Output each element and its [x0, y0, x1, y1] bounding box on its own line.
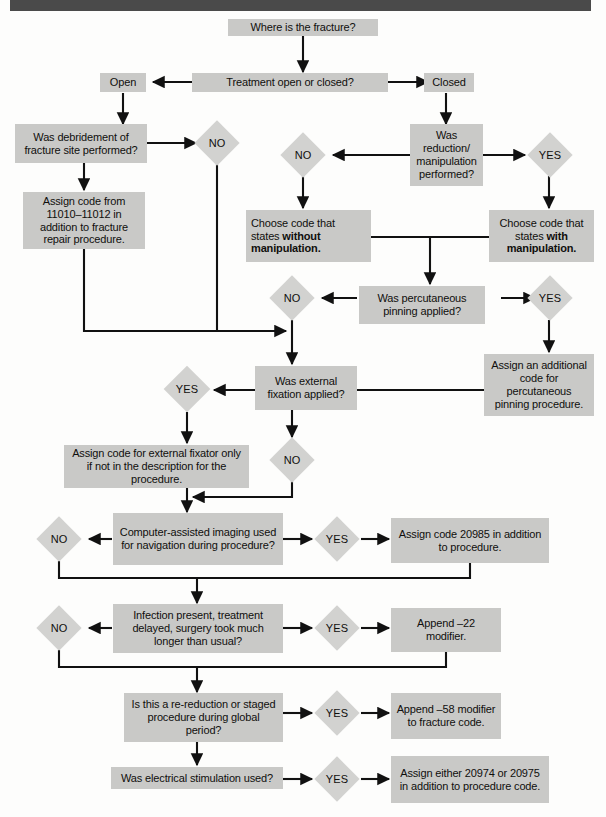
node-computer-imaging-question-label: Computer-assisted imaging used for navig… [118, 526, 278, 552]
node-external-yes: YES [161, 366, 213, 412]
node-append-22-label: Append –22 modifier. [396, 617, 496, 643]
node-assign-20974: Assign either 20974 or 20975 in addition… [391, 756, 549, 803]
node-infection-question: Infection present, treatment delayed, su… [113, 604, 283, 653]
node-percutaneous-no-label: NO [267, 276, 317, 320]
node-rereduction-yes-label: YES [311, 691, 363, 735]
node-infection-yes: YES [311, 606, 363, 650]
header-bar [10, 0, 591, 11]
node-reduction-question-label: Was reduction/ manipulation performed? [415, 129, 478, 181]
node-debridement-no: NO [192, 121, 242, 165]
node-infection-no-label: NO [33, 606, 85, 650]
code-with-prefix: Choose code that states [500, 217, 584, 242]
node-electrical-yes: YES [311, 757, 363, 801]
node-reduction-yes-label: YES [524, 133, 576, 177]
node-open-label: Open [110, 76, 136, 89]
node-debridement-question: Was debridement of fracture site perform… [15, 124, 147, 163]
node-start-label: Where is the fracture? [251, 21, 356, 34]
node-assign-20974-label: Assign either 20974 or 20975 in addition… [396, 767, 544, 793]
node-infection-no: NO [33, 606, 85, 650]
node-percutaneous-yes-label: YES [524, 276, 576, 320]
node-assign-pinning: Assign an additional code for percutaneo… [484, 354, 594, 416]
node-infection-yes-label: YES [311, 606, 363, 650]
node-electrical-question: Was electrical stimulation used? [111, 767, 283, 789]
node-percutaneous-no: NO [267, 276, 317, 320]
node-append-58: Append –58 modifier to fracture code. [391, 693, 501, 739]
node-computer-imaging-question: Computer-assisted imaging used for navig… [113, 513, 283, 565]
node-open: Open [100, 73, 146, 92]
node-append-58-label: Append –58 modifier to fracture code. [396, 703, 496, 729]
node-percutaneous-question-label: Was percutaneous pinning applied? [364, 292, 480, 318]
node-debridement-no-label: NO [192, 121, 242, 165]
node-imaging-yes: YES [311, 517, 363, 561]
node-infection-question-label: Infection present, treatment delayed, su… [118, 609, 278, 648]
node-treatment-question-label: Treatment open or closed? [226, 76, 353, 89]
node-assign-11010: Assign code from 11010–11012 in addition… [23, 192, 145, 249]
node-code-without-manipulation: Choose code that states without manipula… [246, 210, 371, 262]
node-reduction-yes: YES [524, 133, 576, 177]
node-closed-label: Closed [432, 76, 465, 89]
node-assign-20985: Assign code 20985 in addition to procedu… [391, 518, 549, 563]
node-assign-fixator: Assign code for external fixator only if… [64, 445, 249, 488]
node-closed: Closed [424, 73, 474, 92]
node-rereduction-question-label: Is this a re-reduction or staged procedu… [129, 698, 278, 737]
node-external-no: NO [267, 438, 317, 482]
node-external-fixation-question: Was external fixation applied? [255, 366, 357, 410]
node-electrical-yes-label: YES [311, 757, 363, 801]
node-assign-fixator-label: Assign code for external fixator only if… [69, 447, 244, 486]
node-electrical-question-label: Was electrical stimulation used? [121, 772, 273, 785]
node-reduction-no-label: NO [278, 133, 328, 177]
node-imaging-yes-label: YES [311, 517, 363, 561]
node-imaging-no: NO [33, 517, 85, 561]
node-external-fixation-question-label: Was external fixation applied? [260, 375, 352, 401]
node-imaging-no-label: NO [33, 517, 85, 561]
node-assign-11010-label: Assign code from 11010–11012 in addition… [28, 195, 140, 247]
flowchart-page: Where is the fracture? Treatment open or… [0, 0, 606, 817]
node-code-with-manipulation: Choose code that states with manipulatio… [489, 210, 594, 262]
node-assign-pinning-label: Assign an additional code for percutaneo… [489, 359, 589, 411]
node-treatment-question: Treatment open or closed? [192, 73, 388, 92]
node-start: Where is the fracture? [228, 19, 378, 36]
node-external-no-label: NO [267, 438, 317, 482]
node-reduction-question: Was reduction/ manipulation performed? [410, 124, 483, 186]
node-append-22: Append –22 modifier. [391, 608, 501, 652]
node-code-without-manipulation-label: Choose code that states without manipula… [251, 217, 366, 256]
node-debridement-question-label: Was debridement of fracture site perform… [20, 131, 142, 157]
node-reduction-no: NO [278, 133, 328, 177]
node-percutaneous-yes: YES [524, 276, 576, 320]
node-percutaneous-question: Was percutaneous pinning applied? [359, 286, 485, 324]
node-assign-20985-label: Assign code 20985 in addition to procedu… [396, 528, 544, 554]
node-rereduction-yes: YES [311, 691, 363, 735]
node-rereduction-question: Is this a re-reduction or staged procedu… [124, 693, 283, 742]
node-code-with-manipulation-label: Choose code that states with manipulatio… [494, 217, 589, 256]
node-external-yes-label: YES [161, 366, 213, 412]
